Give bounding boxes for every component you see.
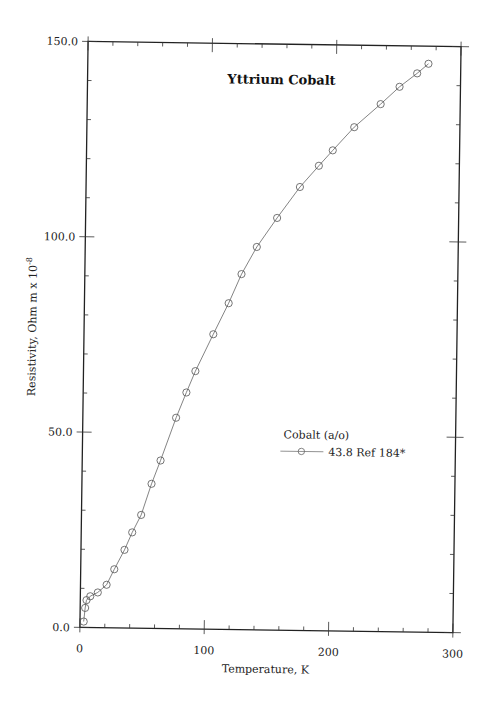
y-axis-title-exponent: -8 [25, 257, 34, 265]
plot-frame [80, 41, 461, 632]
chart-title: Yttrium Cobalt [226, 71, 335, 88]
y-tick-label: 0.0 [52, 621, 70, 634]
legend: Cobalt (a/o) 43.8 Ref 184* [280, 428, 406, 460]
y-axis-title: Resistivity, Ohm m x 10-8 [23, 257, 40, 396]
plot-area: 01002003000.050.0100.0150.0 Yttrium Coba… [19, 35, 471, 679]
x-tick-label: 300 [442, 647, 463, 660]
resistivity-chart: 01002003000.050.0100.0150.0 Yttrium Coba… [0, 0, 489, 710]
x-axis-title: Temperature, K [222, 662, 310, 676]
y-tick-label: 50.0 [48, 426, 73, 439]
series-line [84, 59, 429, 626]
legend-entry-label: 43.8 Ref 184* [328, 446, 406, 460]
y-tick-label: 150.0 [46, 35, 78, 48]
x-tick-label: 0 [76, 642, 83, 655]
svg-text:Resistivity, Ohm m x 10-8: Resistivity, Ohm m x 10-8 [23, 257, 40, 396]
axis-tick-labels: 01002003000.050.0100.0150.0 [38, 35, 472, 661]
legend-title: Cobalt (a/o) [284, 428, 350, 442]
data-series [80, 55, 432, 630]
y-tick-label: 100.0 [44, 230, 76, 243]
axis-ticks [74, 36, 469, 637]
y-axis-title-main: Resistivity, Ohm m x 10 [25, 265, 40, 396]
x-tick-label: 200 [318, 646, 339, 659]
x-tick-label: 100 [193, 644, 214, 657]
legend-line [280, 451, 323, 452]
